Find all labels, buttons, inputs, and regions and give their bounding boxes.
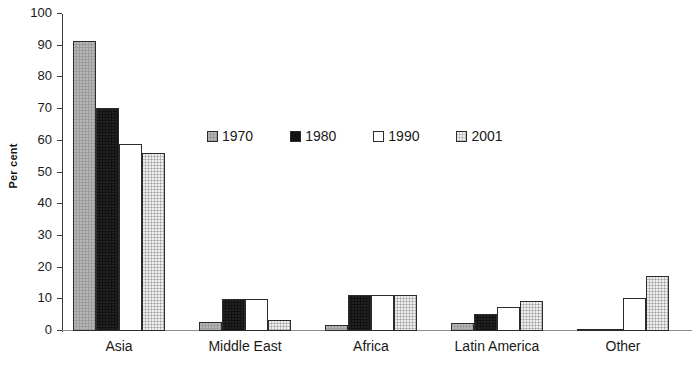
y-tick-label: 100 xyxy=(18,5,52,20)
y-tick-label: 70 xyxy=(18,100,52,115)
x-axis-label: Latin America xyxy=(455,338,540,354)
y-tick-label: 50 xyxy=(18,164,52,179)
bar xyxy=(520,301,543,331)
legend: 1970198019902001 xyxy=(207,128,503,144)
y-tick-label: 10 xyxy=(18,290,52,305)
x-axis-category-labels: AsiaMiddle EastAfricaLatin AmericaOther xyxy=(62,338,692,360)
y-tick-label: 80 xyxy=(18,68,52,83)
bar xyxy=(73,41,96,331)
legend-label: 2001 xyxy=(471,128,502,144)
y-tick-label: 0 xyxy=(18,322,52,337)
bar xyxy=(325,325,348,331)
legend-item[interactable]: 1970 xyxy=(207,128,253,144)
bar xyxy=(348,295,371,331)
legend-item[interactable]: 1980 xyxy=(290,128,336,144)
bar-chart: Per cent 1009080706050403020100 AsiaMidd… xyxy=(0,0,699,365)
bar xyxy=(497,307,520,331)
legend-item[interactable]: 1990 xyxy=(373,128,419,144)
bar xyxy=(600,329,623,331)
bar xyxy=(646,276,669,331)
bar xyxy=(268,320,291,331)
legend-label: 1970 xyxy=(222,128,253,144)
x-axis-label: Asia xyxy=(105,338,132,354)
plot-area: 1009080706050403020100 xyxy=(62,14,692,331)
bar-group xyxy=(325,14,417,331)
bar-group xyxy=(451,14,543,331)
legend-item[interactable]: 2001 xyxy=(456,128,502,144)
legend-swatch-icon xyxy=(207,131,218,142)
bar xyxy=(623,298,646,331)
legend-swatch-icon xyxy=(290,131,301,142)
y-axis-title-text: Per cent xyxy=(6,143,18,188)
legend-swatch-icon xyxy=(373,131,384,142)
bar xyxy=(119,144,142,331)
bar-group xyxy=(577,14,669,331)
bar xyxy=(142,153,165,331)
x-axis-label: Other xyxy=(605,338,640,354)
bar xyxy=(474,314,497,331)
bar xyxy=(96,108,119,331)
x-axis-label: Middle East xyxy=(208,338,281,354)
legend-swatch-icon xyxy=(456,131,467,142)
bar-group xyxy=(73,14,165,331)
y-tick-label: 30 xyxy=(18,227,52,242)
x-axis-label: Africa xyxy=(353,338,389,354)
bar xyxy=(222,299,245,331)
bar xyxy=(371,295,394,331)
bar xyxy=(577,329,600,331)
bar xyxy=(451,323,474,331)
legend-label: 1990 xyxy=(388,128,419,144)
bar xyxy=(245,299,268,331)
bar xyxy=(199,322,222,332)
y-tick-label: 90 xyxy=(18,37,52,52)
bar-group xyxy=(199,14,291,331)
bar xyxy=(394,295,417,331)
bar-groups xyxy=(62,14,692,331)
y-tick-label: 60 xyxy=(18,132,52,147)
y-tick-label: 40 xyxy=(18,195,52,210)
y-tick-label: 20 xyxy=(18,259,52,274)
legend-label: 1980 xyxy=(305,128,336,144)
